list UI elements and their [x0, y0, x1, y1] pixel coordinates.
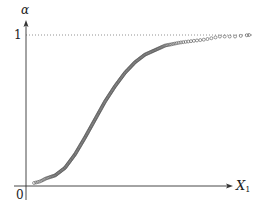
x-axis-label-main: X	[236, 178, 245, 193]
data-point	[218, 35, 221, 38]
data-point	[214, 36, 217, 39]
data-point	[199, 39, 202, 42]
data-point	[239, 34, 242, 37]
data-point	[206, 38, 209, 41]
scatter-points	[33, 34, 251, 185]
data-point	[192, 39, 195, 42]
y-axis-label: α	[21, 4, 29, 16]
data-point	[210, 37, 213, 40]
chart-canvas	[0, 0, 257, 211]
data-point	[234, 35, 237, 38]
y-tick-label-1: 1	[14, 29, 22, 41]
data-point	[223, 35, 226, 38]
origin-label: 0	[16, 189, 24, 201]
data-point	[202, 38, 205, 41]
data-point	[195, 39, 198, 42]
data-point	[228, 35, 231, 38]
x-axis-label: X1	[236, 179, 250, 194]
x-axis-label-subscript: 1	[245, 185, 250, 194]
